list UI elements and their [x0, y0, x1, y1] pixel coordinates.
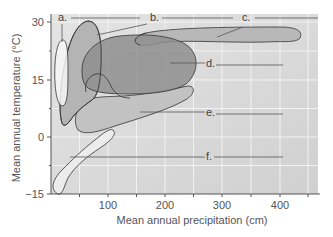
biome-climate-chart: a. b. c. d. e. f. 30 15 0 −15 100 200 30… [0, 0, 333, 237]
label-e: e. [206, 106, 215, 118]
x-tick-400: 400 [271, 199, 289, 211]
region-a [55, 40, 68, 106]
x-tick-100: 100 [99, 199, 117, 211]
label-b: b. [150, 11, 159, 23]
x-tick-200: 200 [156, 199, 174, 211]
y-tick-0: 0 [38, 131, 44, 143]
label-c: c. [242, 11, 251, 23]
y-tick-15: 15 [32, 74, 44, 86]
x-axis-title: Mean annual precipitation (cm) [116, 214, 267, 226]
label-d: d. [206, 57, 215, 69]
y-tick-minus15: −15 [25, 188, 44, 200]
x-tick-300: 300 [213, 199, 231, 211]
y-tick-30: 30 [32, 16, 44, 28]
label-f: f. [206, 150, 212, 162]
y-axis-title: Mean annual temperature (°C) [10, 34, 22, 183]
label-a: a. [58, 11, 67, 23]
